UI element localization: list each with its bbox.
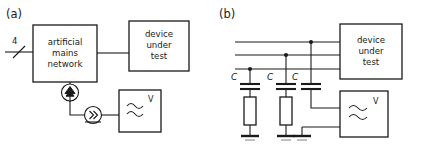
- coupling-branch-2: C: [267, 53, 296, 140]
- coupling-probe-icon: [62, 84, 79, 102]
- capacitor-3-to-receiver-line: [311, 89, 340, 108]
- capacitor-1-label: C: [231, 72, 238, 82]
- ground-symbol-2: [277, 136, 295, 140]
- panel-a: (a) 4 artificial mains network device un…: [5, 7, 189, 132]
- measuring-receiver-b: V: [340, 91, 388, 137]
- capacitor-3-label: C: [292, 72, 299, 82]
- dut-b-label-line-1: device: [357, 35, 385, 45]
- probe-to-amplifier-line: [70, 101, 85, 115]
- ground-symbol-1: [241, 136, 259, 140]
- amn-label-line-1: artificial: [48, 37, 83, 47]
- emi-measurement-setup-figure: (a) 4 artificial mains network device un…: [0, 0, 423, 147]
- panel-b: (b) device under test C: [219, 7, 402, 140]
- terminating-resistor-2: [280, 97, 292, 125]
- dut-label-line-1: device: [145, 29, 173, 39]
- panel-b-label: (b): [219, 7, 235, 21]
- receiver-box-b: [340, 91, 388, 137]
- panel-a-label: (a): [6, 7, 22, 21]
- terminating-resistor-1: [244, 97, 256, 125]
- dut-b-label-line-2: under: [358, 46, 384, 56]
- bus-conductor-count: 4: [12, 36, 17, 46]
- amn-label-line-2: mains: [52, 48, 78, 58]
- amn-label-line-3: network: [48, 59, 83, 69]
- coupling-branch-1: C: [231, 67, 260, 140]
- receiver-box-a: [119, 90, 161, 132]
- capacitor-2-label: C: [267, 72, 274, 82]
- measuring-receiver-a: V: [119, 90, 161, 132]
- dut-b-label-line-3: test: [363, 57, 380, 67]
- dut-label-line-3: test: [151, 51, 168, 61]
- receiver-unit-label-a: V: [148, 95, 154, 104]
- receiver-unit-label-b: V: [373, 97, 379, 106]
- dut-label-line-2: under: [146, 40, 172, 50]
- ground-symbol-3: [293, 136, 311, 140]
- amplifier-icon: [85, 107, 102, 124]
